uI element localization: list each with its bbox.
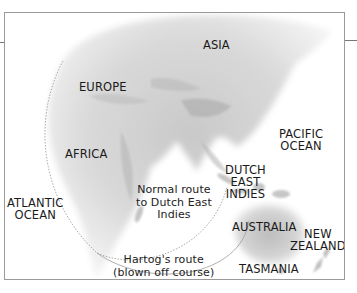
label-tasmania: TASMANIA	[239, 263, 299, 275]
label-africa: AFRICA	[65, 148, 107, 160]
frame-tick-right	[343, 40, 357, 41]
label-pacific-ocean: PACIFIC OCEAN	[279, 128, 323, 152]
label-dutch-east-indies: DUTCH EAST INDIES	[225, 164, 266, 200]
label-normal-route: Normal route to Dutch East Indies	[136, 184, 212, 222]
label-hartog-route: Hartog's route (blown off course)	[113, 254, 214, 279]
label-australia: AUSTRALIA	[232, 221, 297, 233]
label-atlantic-ocean: ATLANTIC OCEAN	[7, 197, 63, 221]
label-asia: ASIA	[203, 39, 230, 51]
label-new-zealand: NEW ZEALAND	[290, 228, 345, 252]
label-europe: EUROPE	[79, 81, 127, 93]
map-frame: ASIA EUROPE AFRICA PACIFIC OCEAN ATLANTI…	[4, 12, 345, 280]
